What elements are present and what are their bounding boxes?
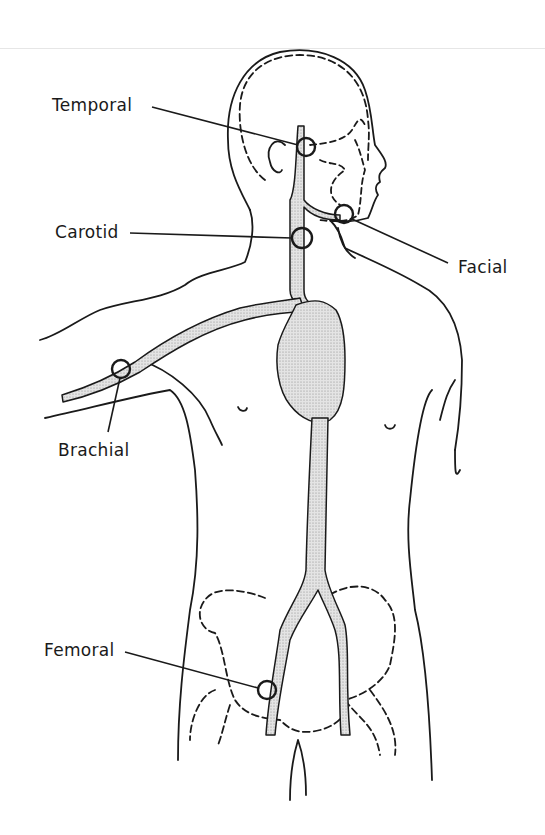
body-outline-figure (0, 0, 545, 835)
descending-aorta (266, 418, 350, 735)
label-temporal: Temporal (52, 95, 132, 115)
label-facial: Facial (458, 257, 508, 277)
carotid-artery (290, 126, 340, 310)
right-armpit (440, 380, 455, 420)
ear (269, 141, 285, 172)
nipple-right (385, 425, 395, 429)
nipple-left (238, 407, 247, 411)
label-carotid: Carotid (55, 222, 119, 242)
femoral-leader (125, 652, 258, 688)
label-brachial: Brachial (58, 440, 129, 460)
crotch (290, 740, 306, 800)
facial-leader (352, 219, 448, 263)
head-outline (228, 50, 462, 450)
right-torso (408, 390, 460, 780)
right-neck (338, 228, 355, 258)
temporal-leader (152, 107, 298, 145)
face-dashed (310, 120, 365, 222)
carotid-leader (130, 233, 292, 238)
label-femoral: Femoral (44, 640, 115, 660)
heart (277, 301, 345, 423)
